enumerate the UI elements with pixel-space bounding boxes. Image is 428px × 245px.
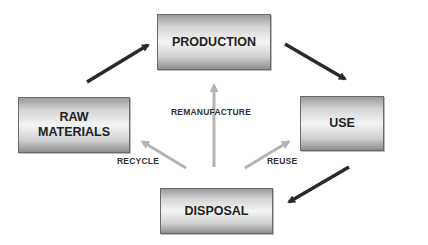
node-use: USE xyxy=(300,96,384,151)
node-production-label: PRODUCTION xyxy=(172,35,256,50)
node-disposal: DISPOSAL xyxy=(160,188,273,234)
node-disposal-label: DISPOSAL xyxy=(185,204,249,219)
node-production: PRODUCTION xyxy=(157,14,271,70)
node-raw-materials: RAW MATERIALS xyxy=(18,97,130,153)
label-remanufacture: REMANUFACTURE xyxy=(171,107,251,117)
node-raw-materials-label: RAW MATERIALS xyxy=(38,110,110,140)
arrow-production-to-use xyxy=(285,44,345,79)
label-reuse: REUSE xyxy=(267,156,297,166)
label-recycle: RECYCLE xyxy=(117,156,159,166)
node-use-label: USE xyxy=(329,116,355,131)
arrow-use-to-disposal xyxy=(289,167,349,202)
arrow-raw-to-production xyxy=(87,45,148,82)
